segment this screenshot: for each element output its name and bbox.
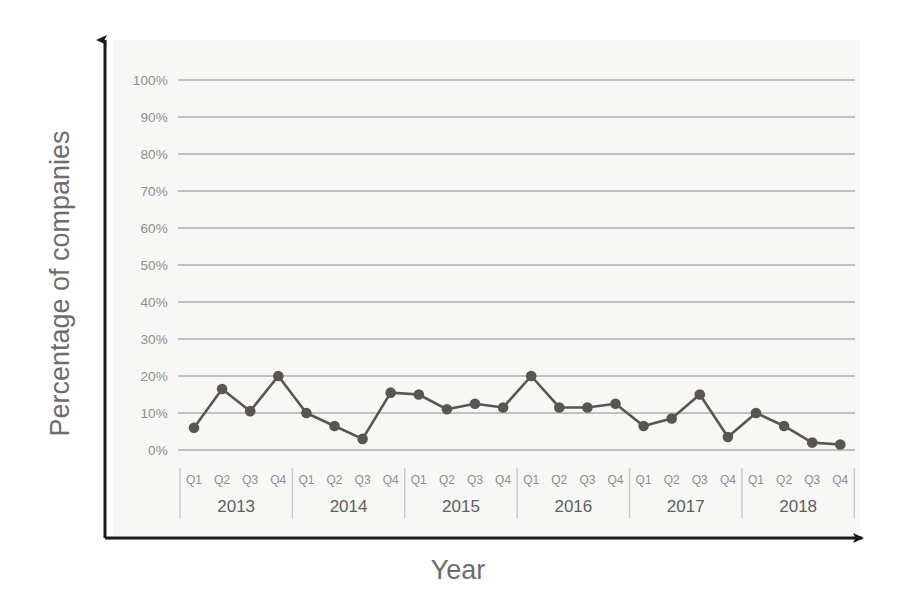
data-line bbox=[194, 376, 840, 444]
data-markers bbox=[189, 371, 846, 450]
x-axis-quarter-label: Q3 bbox=[573, 473, 601, 487]
data-point-marker bbox=[695, 389, 706, 400]
x-axis-quarter-label: Q3 bbox=[236, 473, 264, 487]
x-axis-year-label: 2015 bbox=[405, 497, 517, 517]
x-axis-quarter-label: Q1 bbox=[517, 473, 545, 487]
line-chart: 0%10%20%30%40%50%60%70%80%90%100% Q1Q2Q3… bbox=[0, 0, 916, 604]
x-axis-title: Year bbox=[0, 555, 916, 586]
x-axis-quarter-label: Q3 bbox=[461, 473, 489, 487]
x-axis-quarter-label: Q2 bbox=[770, 473, 798, 487]
x-axis-quarter-label: Q3 bbox=[798, 473, 826, 487]
x-axis-quarter-label: Q1 bbox=[180, 473, 208, 487]
data-point-marker bbox=[273, 371, 284, 382]
x-axis-quarter-label: Q4 bbox=[377, 473, 405, 487]
data-point-marker bbox=[442, 404, 453, 415]
data-point-marker bbox=[666, 413, 677, 424]
y-axis-tick-label: 30% bbox=[112, 332, 168, 347]
x-axis-quarter-label: Q2 bbox=[208, 473, 236, 487]
x-axis-quarter-label: Q1 bbox=[742, 473, 770, 487]
x-axis-year-label: 2016 bbox=[517, 497, 629, 517]
x-axis-quarter-label: Q1 bbox=[630, 473, 658, 487]
x-axis-quarter-label: Q1 bbox=[405, 473, 433, 487]
data-point-marker bbox=[470, 398, 481, 409]
y-axis-tick-label: 80% bbox=[112, 147, 168, 162]
y-axis-tick-label: 0% bbox=[112, 443, 168, 458]
y-axis-tick-label: 20% bbox=[112, 369, 168, 384]
data-point-marker bbox=[301, 408, 312, 419]
data-point-marker bbox=[217, 384, 228, 395]
x-axis-quarter-label: Q2 bbox=[433, 473, 461, 487]
data-point-marker bbox=[245, 406, 256, 417]
data-point-marker bbox=[385, 387, 396, 398]
x-axis-year-label: 2017 bbox=[630, 497, 742, 517]
data-point-marker bbox=[357, 434, 368, 445]
x-axis-year-label: 2014 bbox=[293, 497, 405, 517]
y-axis-tick-label: 40% bbox=[112, 295, 168, 310]
y-axis-title: Percentage of companies bbox=[45, 74, 76, 494]
y-axis-tick-label: 50% bbox=[112, 258, 168, 273]
y-axis-tick-label: 60% bbox=[112, 221, 168, 236]
x-axis-quarter-label: Q4 bbox=[826, 473, 854, 487]
x-axis-quarter-label: Q3 bbox=[686, 473, 714, 487]
x-axis-quarter-label: Q1 bbox=[292, 473, 320, 487]
data-point-marker bbox=[498, 402, 509, 413]
data-point-marker bbox=[554, 402, 565, 413]
y-axis-tick-label: 100% bbox=[112, 73, 168, 88]
data-point-marker bbox=[189, 423, 200, 434]
x-axis-quarter-label: Q4 bbox=[489, 473, 517, 487]
x-axis-quarter-label: Q2 bbox=[321, 473, 349, 487]
x-axis-quarter-label: Q3 bbox=[349, 473, 377, 487]
y-axis-tick-label: 90% bbox=[112, 110, 168, 125]
data-point-marker bbox=[807, 437, 818, 448]
data-point-marker bbox=[751, 408, 762, 419]
x-axis-quarter-label: Q4 bbox=[264, 473, 292, 487]
data-point-marker bbox=[329, 421, 340, 432]
data-point-marker bbox=[638, 421, 649, 432]
y-axis-tick-label: 10% bbox=[112, 406, 168, 421]
data-point-marker bbox=[526, 371, 537, 382]
data-point-marker bbox=[835, 439, 846, 450]
x-axis-quarter-label: Q4 bbox=[602, 473, 630, 487]
x-axis-quarter-label: Q4 bbox=[714, 473, 742, 487]
x-axis-year-label: 2013 bbox=[180, 497, 292, 517]
x-axis-year-label: 2018 bbox=[742, 497, 854, 517]
y-axis-tick-label: 70% bbox=[112, 184, 168, 199]
data-point-marker bbox=[610, 398, 621, 409]
x-axis-quarter-label: Q2 bbox=[545, 473, 573, 487]
data-point-marker bbox=[723, 432, 734, 443]
gridlines bbox=[178, 80, 855, 450]
x-axis-quarter-label: Q2 bbox=[658, 473, 686, 487]
data-point-marker bbox=[414, 389, 425, 400]
data-point-marker bbox=[779, 421, 790, 432]
data-point-marker bbox=[582, 402, 593, 413]
